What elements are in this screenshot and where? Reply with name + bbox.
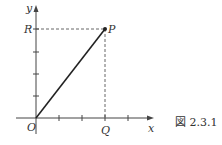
y-axis-label: y bbox=[25, 2, 33, 15]
x-axis-label: x bbox=[148, 122, 155, 135]
segment-OP bbox=[36, 29, 105, 118]
origin-label: O bbox=[27, 121, 36, 134]
point-P-label: P bbox=[107, 23, 116, 36]
y-axis-arrow-icon bbox=[34, 5, 39, 12]
point-R-label: R bbox=[23, 23, 32, 36]
point-Q-label: Q bbox=[101, 124, 110, 137]
x-axis-arrow-icon bbox=[147, 116, 154, 121]
coordinate-diagram: y R P O Q x 図 2.3.1 bbox=[0, 0, 222, 145]
figure-caption: 図 2.3.1 bbox=[175, 116, 218, 129]
point-P-dot bbox=[103, 27, 107, 31]
